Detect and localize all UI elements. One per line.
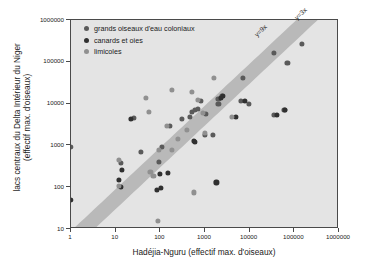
x-tick xyxy=(159,228,160,232)
data-point xyxy=(285,60,290,65)
data-point xyxy=(220,93,225,98)
legend-label: limicoles xyxy=(94,47,122,56)
data-point xyxy=(70,197,74,202)
data-point xyxy=(166,171,171,176)
data-point xyxy=(229,115,234,120)
x-tick-label: 100000 xyxy=(271,233,315,240)
legend-item: canards et oies xyxy=(84,36,194,45)
y-tick-label: 10 xyxy=(22,225,64,232)
data-point xyxy=(234,114,239,119)
data-point xyxy=(179,116,184,121)
y-tick xyxy=(66,144,70,145)
data-point xyxy=(274,112,279,117)
data-point xyxy=(176,136,181,141)
data-point xyxy=(191,190,196,195)
y-axis-title-line1: lacs centraux du Delta Intérieur du Nige… xyxy=(12,12,22,222)
data-point xyxy=(210,132,215,137)
data-point xyxy=(216,102,221,107)
y-tick xyxy=(66,19,70,20)
x-axis-title: Hadéjia-Nguru (effectif max. d'oiseaux) xyxy=(70,247,338,257)
legend-label: canards et oies xyxy=(94,36,143,45)
y-tick xyxy=(66,228,70,229)
x-tick-label: 100 xyxy=(137,233,181,240)
data-point xyxy=(138,149,143,154)
x-tick xyxy=(293,228,294,232)
data-point xyxy=(212,75,217,80)
x-tick-label: 1000000 xyxy=(316,233,360,240)
y-tick xyxy=(66,103,70,104)
data-point xyxy=(157,147,162,152)
x-tick xyxy=(204,228,205,232)
data-point xyxy=(146,110,151,115)
data-point xyxy=(157,159,162,164)
y-tick xyxy=(66,186,70,187)
data-point xyxy=(189,89,194,94)
legend-label: grands oiseaux d'eau coloniaux xyxy=(94,24,194,33)
data-point xyxy=(169,88,174,93)
scatter-plot-figure: 1101001000100001000001000000101001000100… xyxy=(0,0,366,270)
legend-marker-icon xyxy=(84,38,89,43)
y-axis-title: lacs centraux du Delta Intérieur du Nige… xyxy=(12,12,33,222)
data-point xyxy=(156,218,161,223)
x-tick-label: 10000 xyxy=(227,233,271,240)
data-point xyxy=(70,145,74,150)
x-tick xyxy=(115,228,116,232)
data-point xyxy=(240,75,245,80)
data-point xyxy=(158,171,163,176)
data-point xyxy=(187,114,192,119)
x-tick-label: 1 xyxy=(48,233,92,240)
data-point xyxy=(169,147,174,152)
legend: grands oiseaux d'eau coloniauxcanards et… xyxy=(84,24,194,59)
data-point xyxy=(143,96,148,101)
x-tick-label: 10 xyxy=(93,233,137,240)
x-tick xyxy=(249,228,250,232)
data-point xyxy=(184,127,189,132)
y-tick xyxy=(66,61,70,62)
legend-item: grands oiseaux d'eau coloniaux xyxy=(84,24,194,33)
legend-item: limicoles xyxy=(84,47,194,56)
data-point xyxy=(283,108,288,113)
data-point xyxy=(151,173,156,178)
x-tick xyxy=(338,228,339,232)
data-point xyxy=(117,177,122,182)
data-point xyxy=(300,41,305,46)
legend-marker-icon xyxy=(84,26,89,31)
legend-marker-icon xyxy=(84,49,89,54)
data-point xyxy=(159,186,164,191)
x-tick xyxy=(70,228,71,232)
data-point xyxy=(214,180,219,185)
data-point xyxy=(120,167,125,172)
x-tick-label: 1000 xyxy=(182,233,226,240)
y-axis-title-line2: (effectif max. d'oiseaux) xyxy=(22,12,32,222)
data-point xyxy=(271,51,276,56)
data-point xyxy=(193,140,198,145)
